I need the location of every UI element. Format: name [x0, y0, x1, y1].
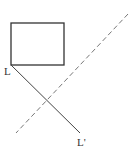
label-l: L	[4, 65, 11, 77]
label-l-prime: L'	[77, 136, 86, 148]
rectangle-shape	[11, 23, 64, 65]
dashed-mirror-line	[16, 14, 128, 133]
diagram-canvas: L L'	[0, 0, 132, 158]
segment-l-to-l-prime	[11, 65, 80, 133]
